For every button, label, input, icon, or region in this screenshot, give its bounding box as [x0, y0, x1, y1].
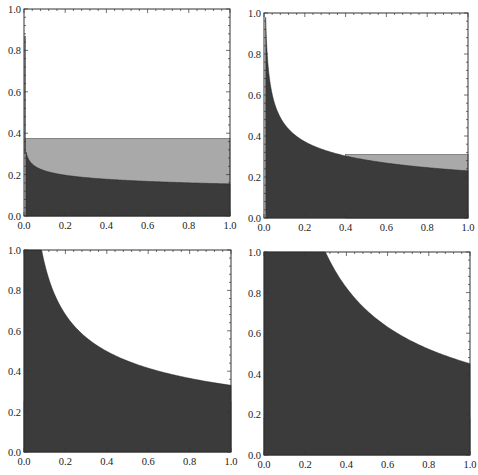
y-tick-label: 1.0: [248, 8, 261, 19]
y-tick-label: 0.4: [8, 366, 22, 377]
y-tick-label: 0.6: [8, 87, 21, 98]
x-tick-label: 0.2: [298, 222, 311, 233]
y-tick-label: 0.8: [8, 45, 21, 56]
dark-region: [266, 17, 468, 218]
x-tick-label: 1.0: [223, 220, 236, 231]
panel-top-left: 0.00.20.40.60.81.00.00.20.40.60.81.0: [8, 4, 237, 231]
x-tick-label: 1.0: [461, 222, 474, 233]
x-tick-label: 0.6: [142, 456, 155, 467]
y-tick-label: 0.8: [248, 49, 261, 60]
y-tick-label: 0.6: [248, 328, 261, 339]
y-tick-label: 0.2: [248, 409, 261, 420]
four-panel-area-chart: 0.00.20.40.60.81.00.00.20.40.60.81.00.00…: [0, 0, 478, 475]
y-tick-label: 0.8: [8, 285, 21, 296]
x-tick-label: 0.2: [299, 459, 312, 470]
panel-bottom-left: 0.00.20.40.60.81.00.00.20.40.60.81.0: [8, 245, 238, 467]
y-tick-label: 0.2: [248, 172, 261, 183]
y-tick-label: 0.0: [8, 447, 21, 458]
x-tick-label: 0.8: [183, 456, 196, 467]
y-tick-label: 1.0: [8, 245, 21, 256]
dark-region: [264, 252, 470, 455]
y-tick-label: 0.2: [8, 407, 21, 418]
x-tick-label: 0.6: [141, 220, 154, 231]
y-tick-label: 0.6: [248, 90, 261, 101]
x-tick-label: 0.6: [380, 222, 393, 233]
y-tick-label: 0.0: [248, 213, 261, 224]
panel-bottom-right: 0.00.20.40.60.81.00.00.20.40.60.81.0: [248, 247, 477, 470]
y-tick-label: 0.0: [248, 450, 261, 461]
x-tick-label: 1.0: [463, 459, 476, 470]
y-tick-label: 1.0: [248, 247, 261, 258]
y-tick-label: 0.6: [8, 326, 21, 337]
dark-region: [24, 250, 231, 452]
x-tick-label: 0.8: [421, 222, 434, 233]
x-tick-label: 0.2: [59, 456, 72, 467]
y-tick-label: 1.0: [8, 4, 21, 15]
x-tick-label: 0.4: [100, 220, 114, 231]
x-tick-label: 0.4: [340, 459, 354, 470]
panel-top-right: 0.00.20.40.60.81.00.00.20.40.60.81.0: [248, 8, 475, 233]
x-tick-label: 0.6: [381, 459, 394, 470]
y-tick-label: 0.4: [248, 131, 262, 142]
x-tick-label: 0.2: [59, 220, 72, 231]
y-tick-label: 0.4: [8, 128, 22, 139]
x-tick-label: 1.0: [224, 456, 237, 467]
y-tick-label: 0.2: [8, 170, 21, 181]
y-tick-label: 0.4: [248, 369, 262, 380]
y-tick-label: 0.8: [248, 288, 261, 299]
y-tick-label: 0.0: [8, 211, 21, 222]
x-tick-label: 0.4: [100, 456, 114, 467]
x-tick-label: 0.8: [422, 459, 435, 470]
x-tick-label: 0.8: [182, 220, 195, 231]
x-tick-label: 0.4: [339, 222, 353, 233]
